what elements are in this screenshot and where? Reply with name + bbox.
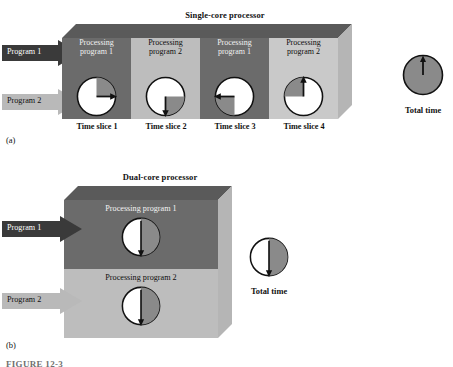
time-slice-2-label: Time slice 2: [126, 122, 206, 131]
panel-a-title: Single-core processor: [140, 10, 310, 20]
slice-4-line2: program 2: [269, 47, 338, 57]
program-2-arrow-label-a: Program 2: [7, 96, 41, 105]
slice-4-clock: [282, 75, 325, 118]
figure-container: Single-core processor Program 1 Program …: [0, 0, 453, 367]
panel-b-total-time-clock: [248, 236, 290, 278]
panel-a-total-time-clock: [401, 53, 445, 97]
slice-3-clock: [213, 75, 256, 118]
slice-3-line2: program 1: [200, 47, 269, 57]
panel-a-total-time-label: Total time: [383, 106, 453, 115]
slice-1-line2: program 1: [62, 47, 131, 57]
program-1-arrow-label-a: Program 1: [7, 47, 41, 56]
panel-b-letter: (b): [6, 340, 16, 350]
slice-2-clock: [144, 75, 187, 118]
slice-2-line2: program 2: [131, 47, 200, 57]
program-1-arrow-label-b: Program 1: [7, 223, 41, 232]
dual-core-band-1-clock: [120, 216, 162, 258]
time-slice-3-label: Time slice 3: [195, 122, 275, 131]
time-slice-4-label: Time slice 4: [264, 122, 344, 131]
panel-b-total-time-label: Total time: [229, 287, 309, 296]
time-slice-1-label: Time slice 1: [57, 122, 137, 131]
slice-1-clock: [75, 75, 118, 118]
dual-core-band-2-label: Processing program 2: [64, 273, 218, 282]
dual-core-band-2-clock: [120, 285, 162, 327]
panel-b-title: Dual-core processor: [75, 172, 245, 182]
panel-a-letter: (a): [6, 135, 15, 145]
program-2-arrow-label-b: Program 2: [7, 295, 41, 304]
dual-core-band-1-label: Processing program 1: [64, 204, 218, 213]
figure-caption: FIGURE 12-3: [6, 359, 63, 367]
